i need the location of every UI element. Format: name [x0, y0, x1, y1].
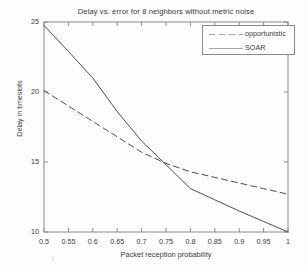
x-tick-label: 0.5	[31, 237, 57, 246]
legend-label-soar: SOAR	[245, 43, 265, 52]
x-tick-label: 1	[275, 237, 301, 246]
data-series-group	[44, 26, 288, 233]
legend-swatch-dashed	[209, 34, 243, 35]
x-tick-label: 0.55	[55, 237, 81, 246]
x-tick-label: 0.75	[153, 237, 179, 246]
chart-figure: Delay vs. error for 8 neighbors without …	[0, 0, 307, 269]
x-tick-label: 0.85	[202, 237, 228, 246]
x-tick-label: 0.6	[80, 237, 106, 246]
legend-entry-opportunistic: opportunistic	[203, 27, 296, 41]
x-tick-label: 0.8	[177, 237, 203, 246]
series-line-opportunistic	[44, 91, 288, 195]
y-tick-label: 25	[17, 17, 39, 26]
legend-label-opportunistic: opportunistic	[245, 29, 286, 38]
x-tick-label: 0.95	[251, 237, 277, 246]
legend-swatch-solid	[209, 48, 243, 49]
x-tick-label: 0.9	[226, 237, 252, 246]
y-tick-label: 15	[17, 157, 39, 166]
series-line-soar	[44, 26, 288, 233]
y-tick-label: 20	[17, 87, 39, 96]
y-tick-label: 10	[17, 227, 39, 236]
x-tick-label: 0.65	[104, 237, 130, 246]
chart-legend: opportunistic SOAR	[202, 25, 295, 55]
legend-entry-soar: SOAR	[203, 41, 296, 55]
scan-artifact	[52, 256, 54, 262]
x-tick-label: 0.7	[129, 237, 155, 246]
